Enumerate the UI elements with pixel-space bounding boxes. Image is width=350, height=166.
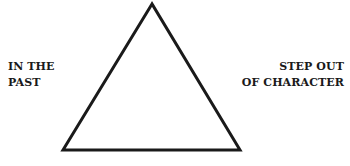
right-label-line-2: OF CHARACTER [242,75,344,91]
triangle-shape [63,4,240,150]
right-label: STEP OUT OF CHARACTER [242,59,344,91]
right-label-line-1: STEP OUT [242,59,344,75]
